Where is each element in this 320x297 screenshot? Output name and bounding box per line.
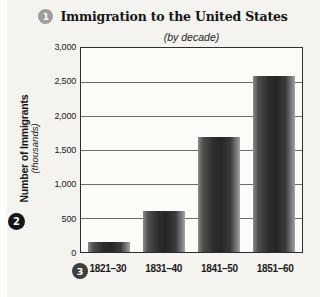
y-tick-500: 500 bbox=[36, 214, 76, 224]
y-tick-1500: 1,500 bbox=[36, 145, 76, 155]
bar-1851–60 bbox=[253, 76, 295, 252]
chart-header: 1 Immigration to the United States bbox=[10, 9, 316, 24]
y-tick-0: 0 bbox=[36, 248, 76, 258]
y-tick-1000: 1,000 bbox=[36, 179, 76, 189]
x-label-1841–50: 1841–50 bbox=[192, 263, 248, 274]
bar-1841–50 bbox=[198, 137, 240, 252]
x-label-1851–60: 1851–60 bbox=[247, 263, 303, 274]
plot-area bbox=[80, 47, 303, 253]
y-tick-3000: 3,000 bbox=[36, 42, 76, 52]
bar-1831–40 bbox=[143, 211, 185, 252]
immigration-bar-chart-figure: 1 Immigration to the United States (by d… bbox=[0, 0, 320, 297]
chart-title: Immigration to the United States bbox=[60, 9, 287, 24]
page-edge-strip bbox=[0, 0, 7, 297]
x-label-1821–30: 1821–30 bbox=[80, 263, 136, 274]
x-axis-labels: 1821–301831–401841–501851–60 bbox=[80, 263, 303, 277]
callout-1-badge: 1 bbox=[38, 9, 53, 24]
y-axis-ticks: 3,0002,5002,0001,5001,0005000 bbox=[36, 47, 76, 253]
x-label-1831–40: 1831–40 bbox=[136, 263, 192, 274]
chart-subtitle: (by decade) bbox=[80, 31, 303, 43]
y-tick-2000: 2,000 bbox=[36, 111, 76, 121]
y-tick-2500: 2,500 bbox=[36, 76, 76, 86]
bar-1821–30 bbox=[88, 242, 130, 252]
callout-2-badge: 2 bbox=[8, 213, 25, 230]
